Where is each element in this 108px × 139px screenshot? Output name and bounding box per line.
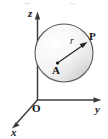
radius-label: r xyxy=(70,36,74,46)
y-axis: y xyxy=(38,97,102,115)
figure-canvas: z y x O r xyxy=(0,0,108,139)
origin-label: O xyxy=(32,102,41,114)
sphere-hidden-arc xyxy=(26,26,35,81)
z-axis-arrowhead xyxy=(35,12,40,20)
geometry-figure: z y x O r xyxy=(0,0,108,139)
scan-artifact xyxy=(24,3,76,5)
surface-point-label: P xyxy=(89,30,96,42)
center-point-label: A xyxy=(52,64,60,76)
z-axis-label: z xyxy=(27,7,33,19)
y-axis-arrowhead xyxy=(94,97,102,102)
y-axis-label: y xyxy=(93,103,100,115)
x-axis-label: x xyxy=(10,126,17,138)
